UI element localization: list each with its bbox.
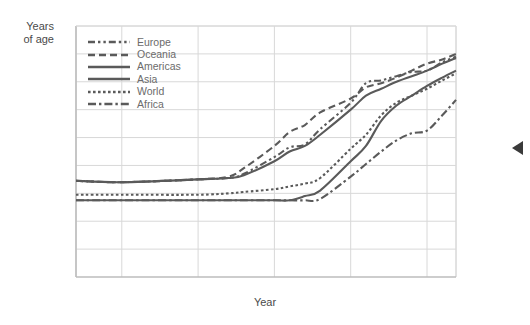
legend-item-europe[interactable]: Europe — [88, 36, 218, 48]
legend-swatch-africa-icon — [88, 99, 130, 109]
legend-label: Americas — [137, 61, 181, 72]
legend-label: Europe — [137, 37, 171, 48]
x-axis-title: Year — [0, 296, 530, 308]
legend-label: World — [137, 86, 164, 97]
series-line-africa — [76, 100, 456, 201]
left-pointing-triangle-icon — [512, 141, 523, 155]
legend-item-asia[interactable]: Asia — [88, 73, 218, 85]
life-expectancy-chart: Years of age EuropeOceaniaAmericasAsiaWo… — [0, 0, 530, 325]
legend-swatch-asia-icon — [88, 74, 130, 84]
legend-label: Asia — [137, 74, 157, 85]
legend-label: Oceania — [137, 49, 176, 60]
plot-area — [0, 0, 530, 325]
legend-swatch-oceania-icon — [88, 50, 130, 60]
legend-item-americas[interactable]: Americas — [88, 61, 218, 73]
legend-swatch-world-icon — [88, 87, 130, 97]
legend-item-world[interactable]: World — [88, 86, 218, 98]
chart-legend: EuropeOceaniaAmericasAsiaWorldAfrica — [88, 36, 218, 110]
legend-swatch-americas-icon — [88, 62, 130, 72]
legend-item-africa[interactable]: Africa — [88, 98, 218, 110]
legend-swatch-europe-icon — [88, 37, 130, 47]
legend-item-oceania[interactable]: Oceania — [88, 48, 218, 60]
legend-label: Africa — [137, 99, 164, 110]
